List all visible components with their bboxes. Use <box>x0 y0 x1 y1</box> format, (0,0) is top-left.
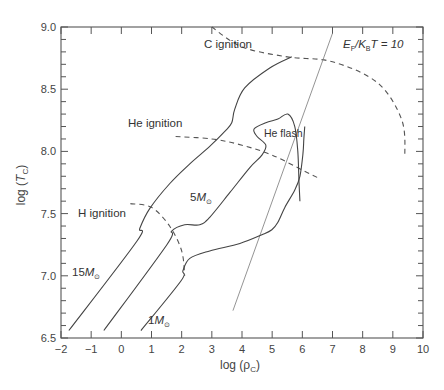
y-tick-label: 6.5 <box>41 332 56 344</box>
label-fermi-condition: EF/KBT = 10 <box>343 38 404 52</box>
label-c-ignition: C ignition <box>204 38 252 50</box>
label-5-msun: 5M⊙ <box>190 191 212 205</box>
y-tick-label: 7.5 <box>41 208 56 220</box>
svg-text:15M⊙: 15M⊙ <box>72 266 100 280</box>
svg-text:5M⊙: 5M⊙ <box>190 191 212 205</box>
x-tick-label: 0 <box>118 343 124 355</box>
track-1msun <box>141 127 305 331</box>
plot-frame <box>61 27 423 338</box>
y-tick-label: 9.0 <box>41 21 56 33</box>
x-tick-label: 4 <box>239 343 245 355</box>
label-he-flash: He flash <box>264 127 303 139</box>
y-tick-label: 8.0 <box>41 145 56 157</box>
svg-text:1M⊙: 1M⊙ <box>148 314 170 328</box>
x-tick-label: 7 <box>329 343 335 355</box>
svg-text:log (TC): log (TC) <box>14 165 30 205</box>
x-tick-label: −1 <box>85 343 98 355</box>
stellar-evolution-chart: −2−10123456789106.57.07.58.08.59.0 C ign… <box>0 0 444 390</box>
x-tick-label: 1 <box>148 343 154 355</box>
x-tick-label: 5 <box>269 343 275 355</box>
data-curves <box>69 27 405 331</box>
label-15-msun: 15M⊙ <box>72 266 100 280</box>
y-tick-label: 7.0 <box>41 270 56 282</box>
x-tick-label: −2 <box>55 343 68 355</box>
x-tick-label: 6 <box>299 343 305 355</box>
label-h-ignition: H ignition <box>78 207 126 219</box>
line-e-f-k-b-t-10 <box>233 33 333 310</box>
track-5msun <box>104 114 300 331</box>
x-tick-label: 3 <box>209 343 215 355</box>
x-tick-label: 9 <box>390 343 396 355</box>
label-he-ignition: He ignition <box>128 117 182 129</box>
x-tick-label: 10 <box>417 343 429 355</box>
track-15msun <box>69 57 292 331</box>
x-tick-label: 2 <box>179 343 185 355</box>
y-tick-label: 8.5 <box>41 83 56 95</box>
svg-text:log (ρC): log (ρC) <box>220 358 260 374</box>
x-tick-label: 8 <box>360 343 366 355</box>
y-axis-title: log (TC) <box>14 165 30 205</box>
x-axis-title: log (ρC) <box>220 358 260 374</box>
svg-text:EF/KBT = 10: EF/KBT = 10 <box>343 38 404 52</box>
label-1-msun: 1M⊙ <box>148 314 170 328</box>
